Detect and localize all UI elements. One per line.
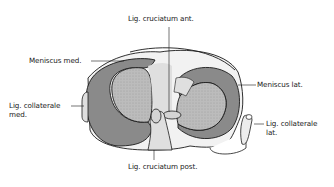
knee-meniscus-diagram: Lig. cruciatum ant. Meniscus med. Menisc…	[0, 0, 334, 187]
label-meniscus-med: Meniscus med.	[29, 57, 81, 66]
label-lig-collaterale-lat-line2: lat.	[266, 129, 317, 138]
ligament-collateral-medial	[82, 92, 88, 122]
label-lig-collaterale-med: Lig. collaterale med.	[9, 102, 60, 119]
label-meniscus-lat: Meniscus lat.	[257, 81, 303, 90]
label-lig-collaterale-lat: Lig. collaterale lat.	[266, 120, 317, 137]
label-lig-collaterale-med-line2: med.	[9, 111, 60, 120]
label-lig-cruciatum-ant: Lig. cruciatum ant.	[128, 15, 194, 24]
ligament-collateral-lateral	[241, 115, 252, 145]
label-lig-cruciatum-post: Lig. cruciatum post.	[128, 163, 197, 172]
diagram-illustration	[0, 0, 334, 187]
